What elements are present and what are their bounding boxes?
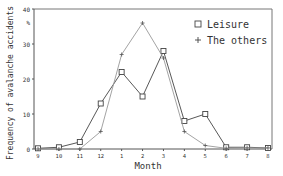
legend: LeisureThe others (195, 19, 267, 46)
x-tick-label: 9 (36, 153, 39, 159)
square-marker (98, 101, 103, 106)
x-tick-label: 10 (56, 153, 63, 159)
x-tick-label: 4 (183, 153, 187, 159)
x-tick-label: 6 (225, 153, 228, 159)
x-tick-label: 5 (204, 153, 207, 159)
x-tick-label: 11 (77, 153, 84, 159)
chart-figure: 010203040%910111212345678MonthFrequency … (0, 0, 283, 176)
square-marker (161, 49, 166, 54)
y-tick-label: 30 (23, 41, 31, 48)
y-tick-label: 0 (26, 146, 30, 153)
series-line (38, 51, 268, 148)
y-tick-label: 40 (23, 6, 31, 13)
series-leisure (36, 49, 271, 151)
square-marker (119, 70, 124, 75)
y-unit-label: % (26, 19, 30, 26)
x-axis-label: Month (134, 161, 161, 171)
square-marker (77, 140, 82, 145)
y-tick-label: 10 (23, 111, 31, 118)
x-tick-label: 12 (97, 153, 104, 159)
y-tick-label: 20 (23, 76, 31, 83)
square-marker (140, 94, 145, 99)
x-tick-label: 7 (245, 153, 248, 159)
x-tick-label: 1 (120, 153, 123, 159)
line-chart: 010203040%910111212345678MonthFrequency … (0, 0, 283, 176)
legend-square-icon (195, 21, 201, 27)
x-tick-label: 3 (162, 153, 165, 159)
square-marker (203, 112, 208, 117)
x-tick-label: 2 (141, 153, 144, 159)
square-marker (182, 119, 187, 124)
y-axis-label: Frequency of avalanche accidents (6, 6, 15, 160)
legend-label-leisure: Leisure (207, 19, 249, 30)
legend-label-others: The others (207, 35, 267, 46)
x-tick-label: 8 (266, 153, 269, 159)
